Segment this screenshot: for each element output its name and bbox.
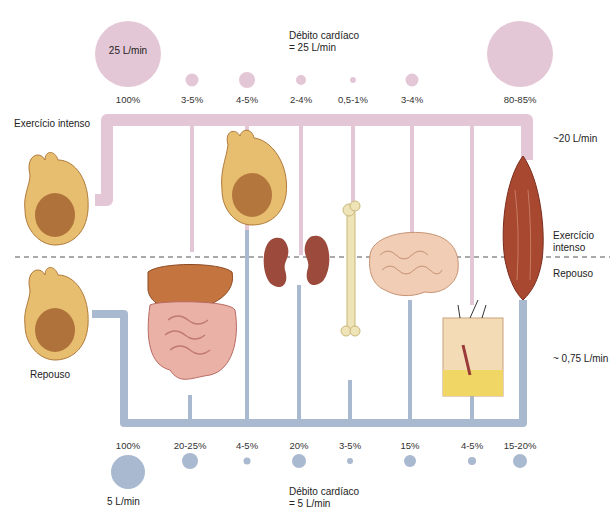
label-exercise-left: Exercício intenso: [14, 118, 90, 130]
exercise-pct-label: 2-4%: [290, 94, 312, 105]
rest-pct-bubble: [347, 458, 353, 464]
muscle-flow-rest: ~ 0,75 L/min: [553, 353, 608, 365]
liver-intestine-illustration: [148, 265, 236, 380]
rest-pct-bubble: [182, 453, 198, 469]
rest-pct-bubble: [468, 457, 476, 465]
exercise-pct-label: 0,5-1%: [338, 94, 368, 105]
exercise-total-value: 25 L/min: [109, 45, 147, 56]
heart-exercise-illustration: [25, 153, 89, 246]
rest-cardiac-output-title: Débito cardíaco = 5 L/min: [289, 486, 359, 510]
rest-total-bubble: [111, 455, 145, 489]
muscle-flow-exercise: ~20 L/min: [553, 133, 597, 145]
rest-pct-label: 4-5%: [461, 440, 483, 451]
exercise-pct-label: 3-5%: [181, 94, 203, 105]
exercise-pct-label: 80-85%: [504, 94, 537, 105]
rest-pct-label: 20-25%: [174, 440, 207, 451]
exercise-cardiac-output-title: Débito cardíaco = 25 L/min: [289, 30, 359, 54]
rest-pct-bubble: [513, 454, 527, 468]
rest-total-value: 5 L/min: [107, 496, 140, 508]
kidneys-illustration: [264, 236, 330, 287]
muscle-illustration: [503, 156, 543, 300]
exercise-total-percent: 100%: [116, 94, 140, 105]
exercise-pct-bubble: [296, 75, 306, 85]
exercise-pct-bubble: [406, 74, 419, 87]
label-exercise-right: Exercício intenso: [553, 230, 594, 254]
cardiac-output-diagram: 25 L/min 100% Débito cardíaco = 25 L/min…: [0, 0, 615, 515]
bone-illustration: [341, 201, 360, 336]
rest-pct-label: 4-5%: [236, 440, 258, 451]
rest-total-percent: 100%: [116, 440, 140, 451]
brain-illustration: [370, 232, 459, 295]
exercise-pct-bubble: [186, 74, 199, 87]
rest-pct-bubble: [292, 454, 306, 468]
rest-pct-bubble: [244, 458, 251, 465]
rest-pct-label: 20%: [289, 440, 308, 451]
exercise-pct-bubble: [350, 77, 356, 83]
rest-pct-label: 15%: [400, 440, 419, 451]
heart-coronary-illustration: [222, 130, 287, 225]
exercise-pct-label: 4-5%: [236, 94, 258, 105]
label-rest-left: Repouso: [30, 369, 70, 381]
label-rest-right: Repouso: [553, 268, 593, 280]
rest-pct-bubble: [404, 455, 416, 467]
heart-rest-illustration: [25, 268, 89, 361]
skin-illustration: [443, 300, 503, 396]
exercise-pct-label: 3-4%: [401, 94, 423, 105]
exercise-pct-bubble: [487, 21, 553, 87]
rest-pct-label: 15-20%: [504, 440, 537, 451]
rest-pct-label: 3-5%: [339, 440, 361, 451]
exercise-pct-bubble: [239, 72, 255, 88]
